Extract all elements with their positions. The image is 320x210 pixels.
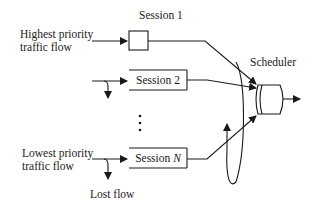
highest-priority-label: Highest priority traffic flow	[20, 28, 93, 54]
scheduler-label: Scheduler	[250, 56, 296, 69]
sessionN-to-scheduler	[187, 116, 256, 159]
session1-label: Session 1	[139, 9, 183, 22]
lost-flow-arrow	[104, 159, 108, 179]
session2-drop-arrow	[104, 81, 108, 98]
lowest-priority-label: Lowest priority traffic flow	[22, 147, 93, 173]
sessionN-label: Session N	[129, 152, 187, 164]
lost-flow-label: Lost flow	[90, 188, 134, 201]
rotation-loop	[227, 62, 244, 184]
session2-label: Session 2	[129, 74, 187, 86]
ellipsis-dots	[139, 115, 142, 132]
session1-box	[129, 31, 148, 50]
session2-to-scheduler	[187, 80, 256, 88]
